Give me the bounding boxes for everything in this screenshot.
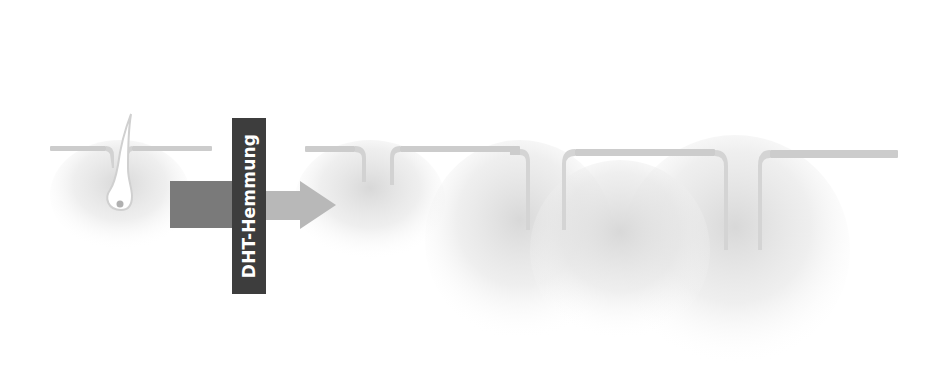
dht-label: DHT-Hemmung bbox=[239, 134, 259, 278]
skin-shadow bbox=[50, 135, 850, 365]
hair-growth-diagram bbox=[0, 0, 943, 369]
papilla-stage-1 bbox=[117, 201, 124, 208]
dht-label-box: DHT-Hemmung bbox=[232, 118, 266, 294]
